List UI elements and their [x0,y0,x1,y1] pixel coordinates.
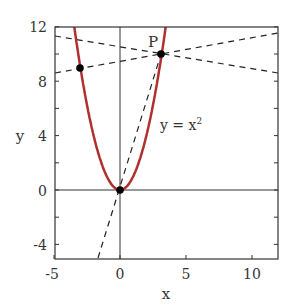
point-label: P [148,33,158,51]
ytick-0: 0 [38,183,47,199]
chart: P y = x2 12 8 4 0 -4 -5 0 5 10 x y [0,0,298,308]
marker-p [157,50,165,58]
ytick-neg4: -4 [33,237,47,253]
plot-svg: P y = x2 12 8 4 0 -4 -5 0 5 10 x y [0,0,298,308]
ytick-8: 8 [38,74,47,90]
x-axis-label: x [162,285,171,303]
xtick-neg5: -5 [45,266,59,282]
xtick-0: 0 [116,266,125,282]
marker-left [76,64,84,72]
ytick-12: 12 [29,19,47,35]
marker-origin [116,186,124,194]
curve-label: y = x2 [159,116,202,133]
ytick-4: 4 [38,128,47,144]
plot-frame [55,27,278,259]
xtick-10: 10 [243,266,261,282]
xtick-5: 5 [182,266,191,282]
y-axis-label: y [15,127,25,145]
secant-line [98,54,161,258]
